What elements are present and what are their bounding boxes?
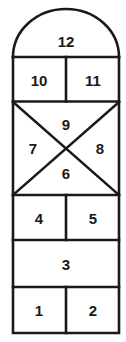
cell-number-10: 10: [31, 72, 48, 89]
cell-number-5: 5: [89, 210, 97, 227]
cell-number-6: 6: [62, 165, 70, 182]
cell-number-4: 4: [35, 210, 44, 227]
cell-number-11: 11: [85, 72, 101, 89]
cell-number-12: 12: [58, 33, 75, 50]
cell-number-3: 3: [62, 256, 70, 273]
cell-number-8: 8: [96, 140, 104, 157]
cell-number-7: 7: [29, 140, 37, 157]
hopscotch-court-diagram: 12 10 11 9 7 8 6 4 5 3 1 2: [0, 0, 126, 342]
cell-number-2: 2: [89, 302, 97, 319]
cell-number-1: 1: [35, 302, 43, 319]
cell-number-9: 9: [62, 116, 70, 133]
court-svg-canvas: 12 10 11 9 7 8 6 4 5 3 1 2: [0, 0, 126, 342]
